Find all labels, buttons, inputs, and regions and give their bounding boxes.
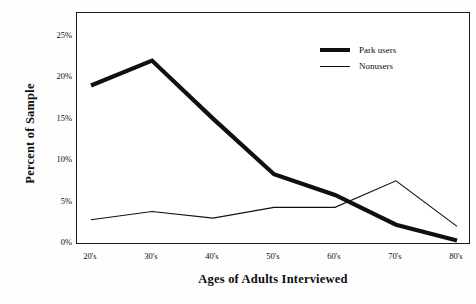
y-tick-label: 10%	[38, 154, 72, 164]
legend: Park users Nonusers	[320, 43, 460, 75]
y-tick-label: 25%	[38, 30, 72, 40]
y-tick-label: 0%	[38, 237, 72, 247]
legend-item-park-users: Park users	[320, 43, 460, 57]
legend-swatch-thick-line-icon	[320, 45, 350, 55]
y-tick-label: 15%	[38, 113, 72, 123]
y-tick-label: 5%	[38, 196, 72, 206]
x-tick-label: 60's	[314, 251, 354, 261]
x-tick-label: 70's	[375, 251, 415, 261]
x-tick-label: 80's	[436, 251, 476, 261]
x-tick-label: 50's	[253, 251, 293, 261]
x-tick-label: 40's	[192, 251, 232, 261]
y-tick-label: 20%	[38, 71, 72, 81]
chart-figure: Percent of Sample 25% 20% 15% 10% 5% 0% …	[0, 0, 476, 304]
legend-swatch-thin-line-icon	[320, 61, 350, 71]
legend-item-nonusers: Nonusers	[320, 59, 460, 73]
legend-label: Nonusers	[350, 61, 393, 71]
series-line-park-users	[91, 61, 457, 241]
x-tick-label: 30's	[131, 251, 171, 261]
x-axis-title: Ages of Adults Interviewed	[76, 272, 470, 287]
plot-area: Park users Nonusers	[76, 12, 470, 244]
x-tick-label: 20's	[70, 251, 110, 261]
x-axis-tick-labels: 20's 30's 40's 50's 60's 70's 80's	[76, 251, 470, 265]
legend-label: Park users	[350, 45, 396, 55]
series-line-nonusers	[91, 181, 457, 227]
y-axis-tick-labels: 25% 20% 15% 10% 5% 0%	[36, 0, 72, 304]
